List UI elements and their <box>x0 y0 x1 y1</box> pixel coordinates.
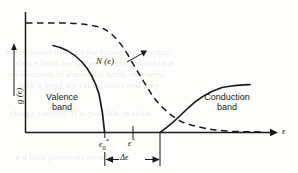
n-epsilon-label: N (ϵ) <box>96 56 114 66</box>
conduction-band-label-line1: Conduction <box>204 92 250 102</box>
y-axis-title: g (ϵ) <box>14 88 24 104</box>
epsilon-zero-star-label: ϵ0* <box>99 138 109 151</box>
conduction-band-label-line2: band <box>217 102 237 112</box>
n-epsilon-pointer-arrow <box>127 50 147 62</box>
delta-epsilon-measure-arrow <box>106 154 160 166</box>
epsilon-zero-star-superscript: * <box>106 137 110 145</box>
epsilon-star-superscript: * <box>131 136 135 144</box>
valence-band-label: Valence band <box>36 92 88 112</box>
delta-epsilon-label: Δϵ <box>120 153 128 163</box>
semiconductor-density-of-states-figure: ble to travel through the lattice and co… <box>0 0 298 173</box>
conduction-band-label: Conduction band <box>196 92 258 112</box>
valence-band-label-line2: band <box>52 102 72 112</box>
x-axis-title: ϵ <box>282 126 286 136</box>
epsilon-star-label: ϵ* <box>128 137 135 148</box>
x-axis <box>26 129 279 136</box>
figure-canvas <box>0 0 298 173</box>
valence-band-label-line1: Valence <box>46 92 78 102</box>
n-epsilon-dashed-curve <box>26 23 262 132</box>
